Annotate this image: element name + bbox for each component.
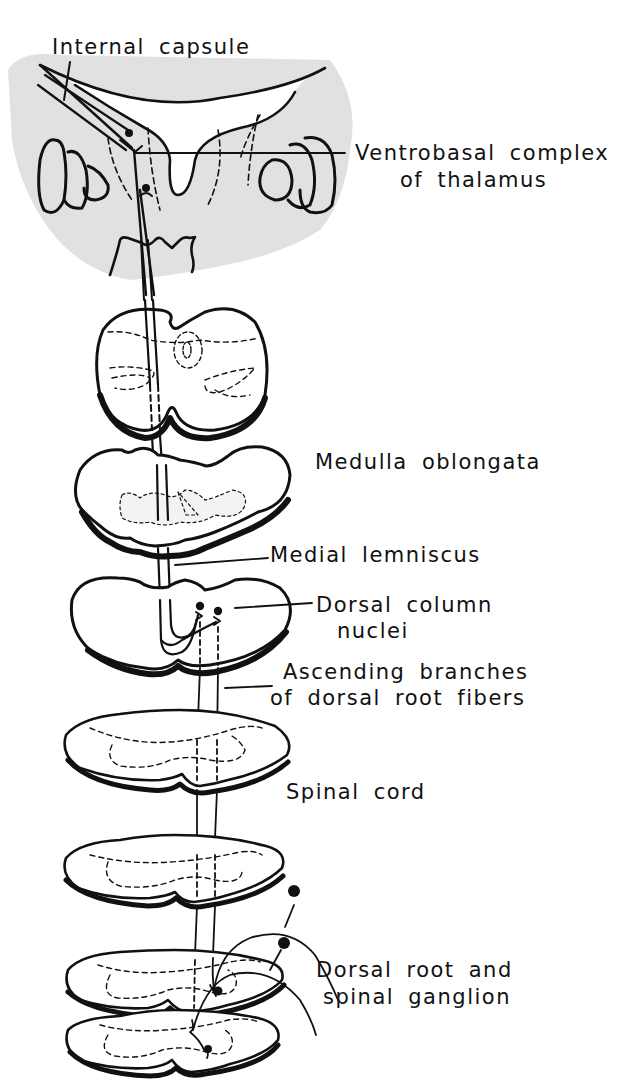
thalamus-section	[8, 54, 353, 280]
label-dorsal-root: Dorsal root and	[316, 958, 513, 982]
label-ventrobasal-complex: Ventrobasal complex	[355, 141, 609, 165]
label-dorsal-column-nuclei: nuclei	[337, 619, 409, 643]
label-internal-capsule: Internal capsule	[52, 35, 250, 59]
label-spinal-cord: Spinal cord	[286, 780, 426, 804]
label-medulla-oblongata: Medulla oblongata	[315, 450, 541, 474]
spinal-section-2	[65, 835, 284, 907]
spinal-section-1	[65, 710, 290, 793]
label-dorsal-root-fibers: of dorsal root fibers	[270, 686, 525, 710]
diagram-canvas: Internal capsule Ventrobasal complex of …	[0, 0, 624, 1092]
pons-section	[97, 300, 267, 438]
label-spinal-ganglion: spinal ganglion	[323, 985, 511, 1009]
label-dorsal-column: Dorsal column	[316, 593, 493, 617]
lower-medulla-section	[71, 578, 312, 675]
label-ascending-branches: Ascending branches	[283, 660, 528, 684]
label-ventrobasal-thalamus: of thalamus	[400, 168, 547, 192]
label-medial-lemniscus: Medial lemniscus	[270, 543, 481, 567]
upper-medulla-section	[75, 447, 290, 557]
